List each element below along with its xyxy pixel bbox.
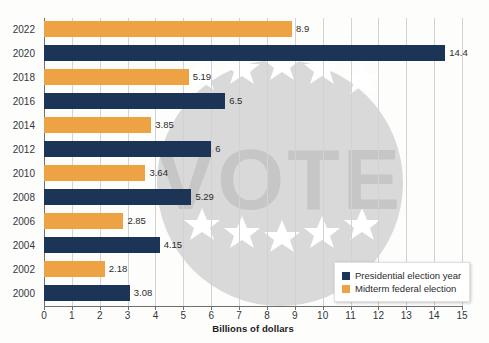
bar-row: 14.4	[44, 42, 462, 66]
bar-2000[interactable]	[44, 285, 130, 301]
x-tick-label-4: 4	[153, 310, 159, 321]
x-tick-label-1: 1	[69, 310, 75, 321]
bar-2022[interactable]	[44, 21, 292, 37]
x-tick-label-2: 2	[97, 310, 103, 321]
x-tick-label-0: 0	[41, 310, 47, 321]
bar-2014[interactable]	[44, 117, 151, 133]
bar-value-label-2010: 3.64	[145, 165, 168, 181]
category-label-2006: 2006	[13, 210, 35, 234]
x-axis-ticks: 0123456789101112131415	[44, 307, 462, 323]
category-label-2016: 2016	[13, 90, 35, 114]
legend-item-presidential[interactable]: Presidential election year	[342, 269, 461, 282]
category-axis-labels: 2022202020182016201420122010200820062004…	[0, 18, 40, 306]
x-tick-label-6: 6	[208, 310, 214, 321]
x-tick-label-3: 3	[125, 310, 131, 321]
bar-value-label-2000: 3.08	[130, 285, 153, 301]
bar-row: 3.64	[44, 162, 462, 186]
x-tick-label-12: 12	[373, 310, 384, 321]
bar-row: 5.29	[44, 186, 462, 210]
x-tick-label-5: 5	[181, 310, 187, 321]
category-label-2022: 2022	[13, 18, 35, 42]
legend-swatch-icon-midterm	[342, 285, 350, 293]
bar-row: 6.5	[44, 90, 462, 114]
bar-2004[interactable]	[44, 237, 160, 253]
legend-item-midterm[interactable]: Midterm federal election	[342, 282, 461, 295]
bar-value-label-2016: 6.5	[225, 93, 242, 109]
category-label-2014: 2014	[13, 114, 35, 138]
legend-swatch-icon-presidential	[342, 272, 350, 280]
chart-legend: Presidential election yearMidterm federa…	[334, 262, 470, 302]
bar-value-label-2012: 6	[211, 141, 220, 157]
category-label-2000: 2000	[13, 282, 35, 306]
bar-row: 3.85	[44, 114, 462, 138]
x-tick-label-9: 9	[292, 310, 298, 321]
bar-value-label-2004: 4.15	[160, 237, 183, 253]
x-tick-label-13: 13	[401, 310, 412, 321]
x-tick-label-15: 15	[456, 310, 467, 321]
x-axis-title: Billions of dollars	[44, 323, 462, 334]
category-label-2012: 2012	[13, 138, 35, 162]
legend-label-presidential: Presidential election year	[355, 270, 461, 281]
x-tick-label-8: 8	[264, 310, 270, 321]
x-tick-label-14: 14	[429, 310, 440, 321]
bar-2016[interactable]	[44, 93, 225, 109]
bar-value-label-2018: 5.19	[189, 69, 212, 85]
bar-row: 8.9	[44, 18, 462, 42]
category-label-2018: 2018	[13, 66, 35, 90]
bar-2012[interactable]	[44, 141, 211, 157]
bar-value-label-2008: 5.29	[191, 189, 214, 205]
bar-value-label-2006: 2.85	[123, 213, 146, 229]
x-tick-label-7: 7	[236, 310, 242, 321]
category-label-2004: 2004	[13, 234, 35, 258]
bar-row: 6	[44, 138, 462, 162]
bar-value-label-2014: 3.85	[151, 117, 174, 133]
bar-row: 5.19	[44, 66, 462, 90]
bar-2008[interactable]	[44, 189, 191, 205]
category-label-2010: 2010	[13, 162, 35, 186]
bar-row: 2.85	[44, 210, 462, 234]
bar-value-label-2022: 8.9	[292, 21, 309, 37]
bar-2006[interactable]	[44, 213, 123, 229]
category-label-2008: 2008	[13, 186, 35, 210]
bar-2018[interactable]	[44, 69, 189, 85]
bar-2020[interactable]	[44, 45, 445, 61]
bar-2002[interactable]	[44, 261, 105, 277]
category-label-2002: 2002	[13, 258, 35, 282]
x-tick-label-11: 11	[345, 310, 355, 321]
x-tick-label-10: 10	[317, 310, 328, 321]
bar-row: 4.15	[44, 234, 462, 258]
category-label-2020: 2020	[13, 42, 35, 66]
bar-2010[interactable]	[44, 165, 145, 181]
bar-chart: VOTE 20222020201820162014201220102008200…	[0, 0, 489, 343]
bar-value-label-2020: 14.4	[445, 45, 468, 61]
legend-label-midterm: Midterm federal election	[355, 283, 456, 294]
bar-value-label-2002: 2.18	[105, 261, 128, 277]
